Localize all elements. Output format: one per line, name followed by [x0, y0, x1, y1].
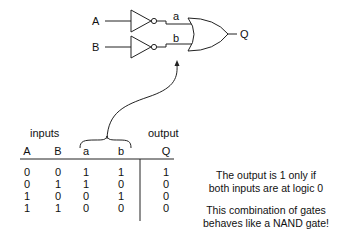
cell: 1	[79, 178, 93, 190]
cell: 0	[159, 178, 173, 190]
cell: 1	[79, 166, 93, 178]
arrow-head-icon	[175, 60, 180, 66]
cell: 0	[159, 190, 173, 202]
cell: 1	[114, 190, 128, 202]
cell: 0	[114, 202, 128, 214]
cell: 0	[51, 166, 65, 178]
column-header-a-upper: A	[20, 145, 34, 157]
cell: 0	[114, 178, 128, 190]
wire-label-a: a	[173, 10, 179, 22]
cell: 1	[20, 190, 34, 202]
inputs-header: inputs	[30, 127, 59, 139]
input-label-b: B	[92, 41, 99, 53]
wire-b	[157, 44, 193, 47]
note-line-4: behaves like a NAND gate!	[186, 217, 341, 230]
cell: 1	[51, 178, 65, 190]
cell: 0	[79, 190, 93, 202]
not-gate-bottom-icon	[131, 36, 151, 58]
or-gate-icon	[188, 18, 228, 51]
cell: 1	[159, 166, 173, 178]
output-header: output	[148, 127, 179, 139]
cell: 0	[51, 190, 65, 202]
inverter-bubble-top	[151, 18, 156, 23]
cell: 0	[20, 166, 34, 178]
input-label-a: A	[92, 15, 99, 27]
column-header-b-upper: B	[51, 145, 65, 157]
cell: 0	[159, 202, 173, 214]
cell: 0	[79, 202, 93, 214]
not-gate-top-icon	[131, 10, 151, 32]
cell: 1	[114, 166, 128, 178]
cell: 1	[51, 202, 65, 214]
column-header-b-lower: b	[114, 145, 128, 157]
cell: 1	[20, 202, 34, 214]
column-header-q: Q	[159, 145, 173, 157]
cell: 0	[20, 178, 34, 190]
note-line-1: The output is 1 only if	[186, 169, 341, 182]
note-line-3: This combination of gates	[186, 204, 341, 217]
output-label-q: Q	[240, 28, 249, 40]
wire-label-b: b	[173, 32, 179, 44]
inverter-bubble-bottom	[151, 44, 156, 49]
note-line-2: both inputs are at logic 0	[186, 182, 341, 195]
column-header-a-lower: a	[79, 145, 93, 157]
